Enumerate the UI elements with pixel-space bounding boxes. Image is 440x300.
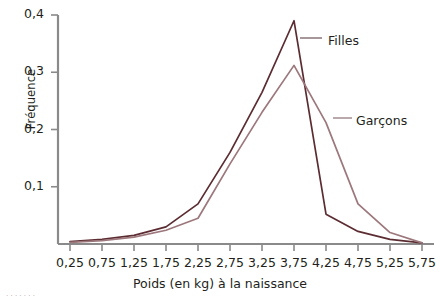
x-tick-label: 1,75 (149, 255, 183, 270)
x-tick-label: 5,75 (405, 255, 439, 270)
y-tick-label: 0,2 (10, 121, 44, 136)
x-tick-label: 4,75 (341, 255, 375, 270)
y-axis-title: Fréquence (24, 44, 38, 154)
x-tick-label: 0,75 (85, 255, 119, 270)
x-tick-label: 5,25 (373, 255, 407, 270)
axis-lines (51, 15, 434, 251)
x-tick-label: 0,25 (53, 255, 87, 270)
footnote-text: · · · · · · · (6, 292, 35, 300)
series-label-filles: Filles (328, 33, 359, 48)
x-tick-label: 3,25 (245, 255, 279, 270)
y-tick-label: 0,4 (10, 6, 44, 21)
y-tick-label: 0,3 (10, 63, 44, 78)
series-lines (70, 21, 422, 243)
x-tick-label: 2,25 (181, 255, 215, 270)
chart-figure: Fréquence 0,10,20,30,4 0,250,751,251,752… (0, 0, 440, 300)
x-tick-label: 4,25 (309, 255, 343, 270)
y-tick-label: 0,1 (10, 178, 44, 193)
x-axis-title: Poids (en kg) à la naissance (0, 276, 440, 291)
x-tick-label: 3,75 (277, 255, 311, 270)
series-label-garons: Garçons (356, 113, 407, 128)
x-tick-label: 2,75 (213, 255, 247, 270)
x-tick-label: 1,25 (117, 255, 151, 270)
